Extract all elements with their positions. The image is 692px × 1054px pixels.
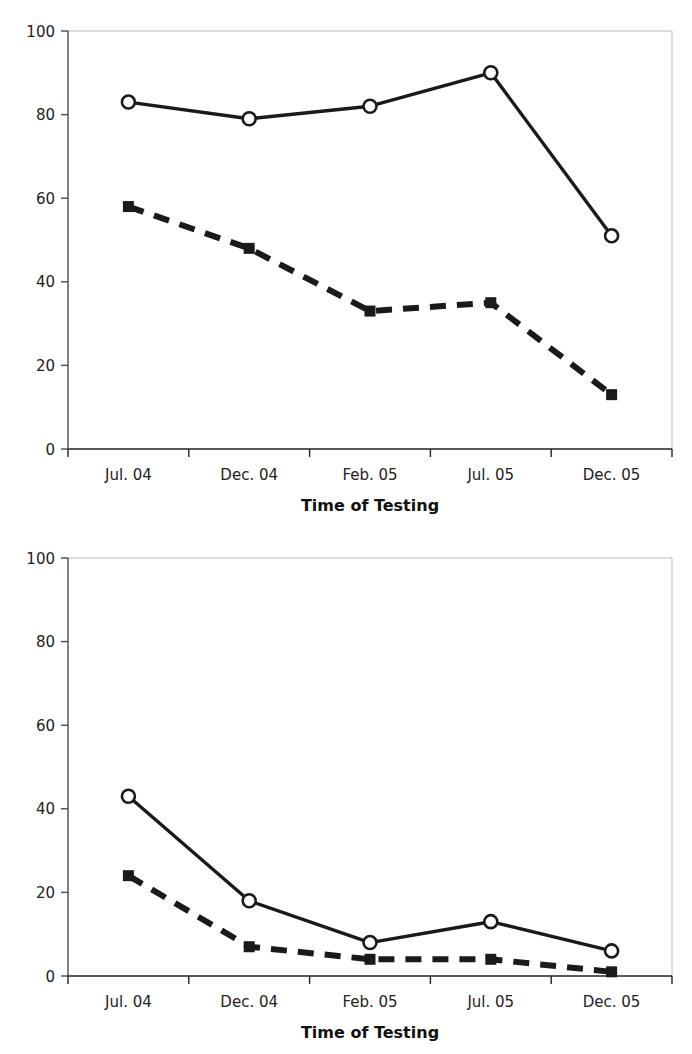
x-tick-label: Dec. 05 [583,993,641,1011]
y-tick-label: 100 [26,23,55,41]
x-tick-label: Jul. 05 [466,993,514,1011]
data-point-marker [244,941,255,952]
data-point-marker [606,966,617,977]
x-tick-label: Jul. 04 [104,993,152,1011]
data-point-marker [365,306,376,317]
y-tick-label: 80 [36,106,55,124]
data-point-marker [364,936,377,949]
x-tick-label: Feb. 05 [342,466,397,484]
y-tick-label: 100 [26,550,55,568]
figure-sheet: 020406080100Jul. 04Dec. 04Feb. 05Jul. 05… [0,0,692,1054]
y-tick-label: 0 [45,441,55,459]
chart-panel-top: 020406080100Jul. 04Dec. 04Feb. 05Jul. 05… [0,0,692,527]
y-tick-label: 20 [36,884,55,902]
data-point-marker [243,894,256,907]
x-tick-label: Jul. 05 [466,466,514,484]
data-point-marker [605,944,618,957]
data-point-marker [484,66,497,79]
series-line-open-circle-solid-line [128,796,611,951]
data-point-marker [123,201,134,212]
data-point-marker [122,96,135,109]
y-tick-label: 40 [36,273,55,291]
x-axis-title: Time of Testing [301,496,439,515]
data-point-marker [123,870,134,881]
x-tick-label: Dec. 05 [583,466,641,484]
x-tick-label: Dec. 04 [220,993,278,1011]
series-line-filled-square-dashed-line [128,207,611,395]
data-point-marker [485,297,496,308]
x-tick-label: Dec. 04 [220,466,278,484]
data-point-marker [244,243,255,254]
y-tick-label: 20 [36,357,55,375]
x-axis-title: Time of Testing [301,1023,439,1042]
x-tick-label: Feb. 05 [342,993,397,1011]
data-point-marker [605,229,618,242]
data-point-marker [364,100,377,113]
line-chart-top: 020406080100Jul. 04Dec. 04Feb. 05Jul. 05… [0,0,692,527]
data-point-marker [243,112,256,125]
data-point-marker [485,954,496,965]
y-tick-label: 0 [45,968,55,986]
chart-panel-bottom: 020406080100Jul. 04Dec. 04Feb. 05Jul. 05… [0,527,692,1054]
y-tick-label: 60 [36,717,55,735]
series-line-open-circle-solid-line [128,73,611,236]
y-tick-label: 60 [36,190,55,208]
data-point-marker [484,915,497,928]
data-point-marker [606,389,617,400]
x-tick-label: Jul. 04 [104,466,152,484]
y-tick-label: 80 [36,633,55,651]
data-point-marker [122,790,135,803]
data-point-marker [365,954,376,965]
line-chart-bottom: 020406080100Jul. 04Dec. 04Feb. 05Jul. 05… [0,527,692,1054]
y-tick-label: 40 [36,800,55,818]
